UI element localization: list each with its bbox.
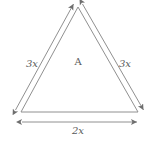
triangle-drawing <box>0 0 155 142</box>
left-side-dimension-line <box>16 4 74 110</box>
geometry-figure: 3x 3x 2x A <box>0 0 155 142</box>
right-side-label: 3x <box>119 59 131 69</box>
left-side-label: 3x <box>26 59 38 69</box>
right-side-dimension-line <box>83 4 144 110</box>
base-label: 2x <box>72 126 84 136</box>
area-label: A <box>74 57 81 67</box>
